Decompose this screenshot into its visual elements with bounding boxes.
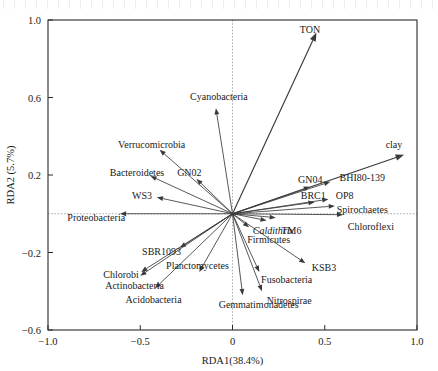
- axis-titles: RDA1(38.4%)RDA2 (5.7%): [5, 145, 264, 367]
- taxon-label: Proteobacteria: [67, 212, 125, 223]
- taxon-vector-shaft: [202, 214, 232, 267]
- taxon-vector-head: [140, 270, 146, 275]
- taxon-label: TM6: [281, 225, 301, 236]
- taxon-vector-head: [258, 285, 262, 292]
- x-tick-label: −1.0: [38, 336, 57, 347]
- taxon-vector-shaft: [164, 154, 232, 214]
- taxon-label: Planctomycetes: [166, 260, 229, 271]
- rda-plot-canvas: −1.0−0.500.51.01.00.60.2−0.2−0.6 RDA1(38…: [0, 0, 438, 371]
- taxon-label: Spirochaetes: [337, 204, 388, 215]
- taxon-vector-head: [329, 204, 335, 209]
- x-axis-title: RDA1(38.4%): [202, 355, 264, 367]
- taxon-label: WS3: [132, 190, 152, 201]
- taxon-label: BHI80-139: [340, 172, 386, 183]
- taxon-vector-head: [299, 258, 305, 263]
- y-tick-label: −0.6: [22, 325, 41, 336]
- taxon-label: Actinobacteria: [105, 280, 164, 291]
- env-vector-head: [395, 154, 404, 160]
- taxon-label: GN04: [298, 174, 322, 185]
- taxon-label: Acidobacteria: [125, 294, 182, 305]
- taxon-label: Bacteroidetes: [110, 167, 165, 178]
- taxon-vector-shaft: [156, 179, 232, 214]
- taxon-vector-head: [157, 196, 164, 201]
- y-tick-label: 0.6: [28, 93, 41, 104]
- taxon-label: BRC1: [301, 190, 326, 201]
- rda-biplot-figure: −1.0−0.500.51.01.00.60.2−0.2−0.6 RDA1(38…: [0, 0, 438, 371]
- taxon-label: SBR1093: [142, 246, 181, 257]
- x-tick-label: −0.5: [131, 336, 150, 347]
- taxon-vector-shaft: [233, 206, 329, 213]
- taxon-label: KSB3: [312, 262, 336, 273]
- x-tick-label: 0: [230, 336, 235, 347]
- taxon-label: Fusobacteria: [261, 274, 313, 285]
- y-tick-label: 0.2: [28, 170, 41, 181]
- taxon-vector-head: [269, 215, 275, 220]
- taxon-vector-shaft: [163, 199, 233, 214]
- env-label: clay: [386, 139, 403, 150]
- taxon-vector-head: [254, 265, 259, 272]
- taxon-label: Cyanobacteria: [190, 91, 248, 102]
- taxon-label: GN02: [177, 167, 201, 178]
- env-label: TON: [300, 24, 320, 35]
- taxon-label: Nitrospirae: [267, 295, 313, 306]
- taxon-label: OP8: [336, 190, 354, 201]
- x-tick-label: 0.5: [318, 336, 331, 347]
- x-tick-label: 1.0: [410, 336, 423, 347]
- taxon-label: Chloroflexi: [348, 221, 394, 232]
- taxon-vector-shaft: [201, 183, 233, 214]
- taxon-label: Firmicutes: [247, 234, 290, 245]
- taxon-vector-head: [239, 289, 244, 295]
- taxon-label: Chlorobi: [103, 269, 139, 280]
- y-tick-label: −0.2: [22, 248, 41, 259]
- taxon-vector-shaft: [217, 114, 233, 213]
- taxon-vector-head: [260, 217, 267, 222]
- env-vector-shaft: [233, 40, 313, 213]
- y-tick-label: 1.0: [28, 15, 41, 26]
- y-axis-title: RDA2 (5.7%): [5, 145, 17, 204]
- taxon-vector-shaft: [233, 200, 323, 214]
- taxon-label: Verrucomicrobia: [118, 139, 186, 150]
- vector-labels: CyanobacteriaVerrucomicrobiaBacteroidete…: [67, 24, 402, 310]
- taxon-vector-head: [214, 108, 219, 114]
